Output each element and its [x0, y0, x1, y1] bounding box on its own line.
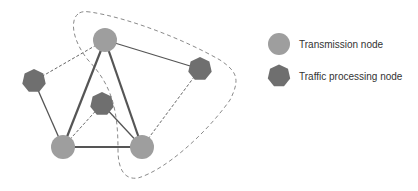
- transmission-node-T2: [51, 135, 75, 159]
- edge-T1-P1: [34, 40, 105, 81]
- transmission-node-icon: [267, 32, 291, 56]
- legend-item-transmission: Transmission node: [267, 32, 383, 56]
- network-diagram: [0, 0, 418, 191]
- transmission-node-T1: [93, 28, 117, 52]
- edge-T3-P3: [142, 69, 200, 147]
- legend-label-traffic: Traffic processing node: [299, 71, 402, 82]
- edge-T1-T2: [63, 40, 105, 147]
- nodes: [22, 28, 211, 159]
- edge-T1-P3: [105, 40, 200, 69]
- transmission-node-T3: [130, 135, 154, 159]
- legend-item-traffic: Traffic processing node: [267, 64, 402, 88]
- legend-label-transmission: Transmission node: [299, 39, 383, 50]
- traffic-processing-node-icon: [267, 64, 291, 88]
- edge-T1-T3: [105, 40, 142, 147]
- traffic-processing-node-P1: [22, 69, 45, 92]
- traffic-processing-node-P3: [188, 57, 211, 80]
